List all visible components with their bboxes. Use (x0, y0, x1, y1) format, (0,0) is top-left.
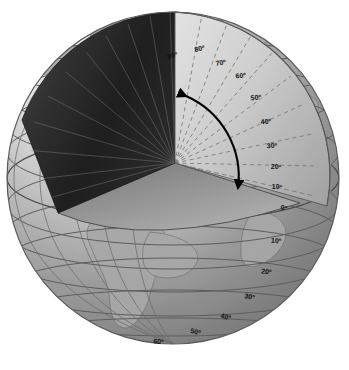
label-lat-s10: 10º (271, 237, 282, 245)
label-lat-s20: 20º (261, 267, 273, 275)
label-lat-50: 50º (250, 94, 261, 102)
figure-canvas: 90º 80º 70º 60º 50º 40º 30º 20º 10º 0º 1… (0, 0, 349, 370)
label-lat-10: 10º (272, 183, 283, 190)
label-lat-0: 0º (281, 204, 288, 211)
label-lat-s60: 60º (153, 337, 165, 345)
label-lat-20: 20º (271, 163, 282, 170)
label-lat-40: 40º (261, 118, 272, 126)
label-lat-60: 60º (235, 71, 246, 79)
label-lat-30: 30º (267, 142, 278, 149)
latitude-label-equator: 0º (281, 204, 288, 211)
globe-diagram: 90º 80º 70º 60º 50º 40º 30º 20º 10º 0º 1… (0, 0, 349, 370)
label-lat-70: 70º (215, 58, 227, 66)
